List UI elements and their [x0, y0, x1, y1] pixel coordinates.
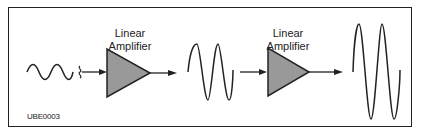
intermediate-sine-wave	[188, 44, 233, 100]
figure-code: UBE0003	[27, 112, 60, 121]
amplifier-2-label-line1: Linear	[248, 27, 328, 40]
input-sine-wave	[27, 65, 73, 80]
amplifier-1-label-line2: Amplifier	[90, 40, 170, 53]
amplifier-2-label-line2: Amplifier	[248, 40, 328, 53]
arrowhead-icon	[259, 69, 267, 75]
amplifier-1-label-line1: Linear	[90, 27, 170, 40]
amplifier-1-triangle	[107, 49, 150, 97]
amplifier-2-label: Linear Amplifier	[248, 27, 328, 53]
amplifier-1-label: Linear Amplifier	[90, 27, 170, 53]
arrowhead-icon	[99, 69, 107, 75]
arrowhead-icon	[168, 70, 177, 76]
amplifier-2-triangle	[268, 48, 309, 96]
diagram-canvas	[0, 0, 422, 137]
arrowhead-icon	[334, 69, 343, 75]
break-mark	[79, 66, 81, 78]
output-sine-wave	[353, 24, 400, 119]
